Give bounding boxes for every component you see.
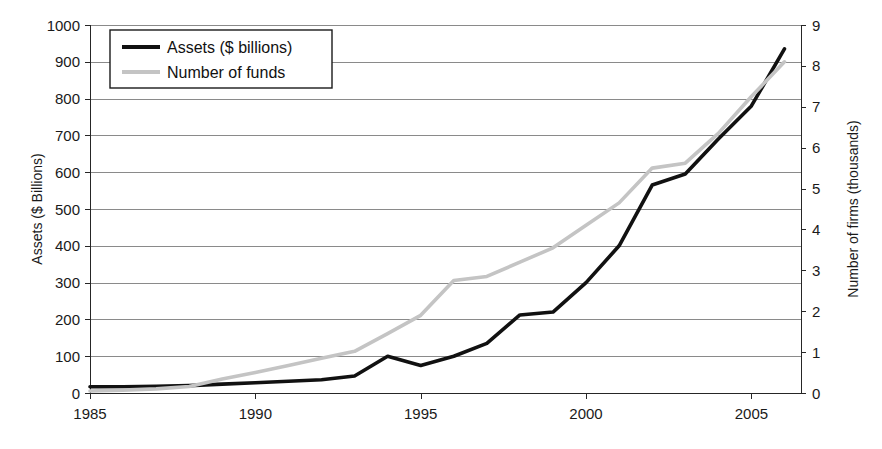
- y-axis-tick-label: 200: [55, 311, 80, 328]
- y2-axis-tick-label: 2: [812, 303, 820, 320]
- series-line-funds: [90, 62, 784, 391]
- y2-axis-tick-label: 6: [812, 139, 820, 156]
- y-axis-tick-label: 800: [55, 90, 80, 107]
- y-axis-tick-label: 400: [55, 237, 80, 254]
- line-chart: 01002003004005006007008009001000 0123456…: [0, 0, 882, 449]
- y-axis-tick-label: 300: [55, 274, 80, 291]
- y2-axis-tick-label: 7: [812, 98, 820, 115]
- x-axis-tick-label: 2000: [569, 405, 602, 422]
- y2-axis-title: Number of firms (thousands): [845, 120, 861, 297]
- data-series-group: [90, 49, 784, 391]
- legend: Assets ($ billions)Number of funds: [110, 30, 332, 88]
- y-axis-title: Assets ($ Billions): [29, 153, 45, 264]
- y-axis-tick-labels: 01002003004005006007008009001000: [47, 17, 80, 402]
- x-axis-tick-label: 1995: [404, 405, 437, 422]
- y-axis-tick-label: 700: [55, 127, 80, 144]
- y-axis-tick-label: 600: [55, 164, 80, 181]
- y-axis-tick-label: 1000: [47, 17, 80, 34]
- y2-axis-tick-label: 5: [812, 180, 820, 197]
- y-axis-tick-label: 900: [55, 53, 80, 70]
- legend-label: Number of funds: [167, 64, 285, 81]
- chart-container: 01002003004005006007008009001000 0123456…: [0, 0, 882, 449]
- x-axis-tick-label: 1985: [73, 405, 106, 422]
- y-axis-tick-label: 0: [72, 385, 80, 402]
- y2-axis-tick-label: 0: [812, 385, 820, 402]
- x-axis-tick-labels: 19851990199520002005: [73, 405, 768, 422]
- y2-axis-tick-label: 8: [812, 57, 820, 74]
- legend-label: Assets ($ billions): [167, 39, 292, 56]
- y2-axis-tick-label: 9: [812, 17, 820, 34]
- y2-axis-tick-label: 4: [812, 221, 820, 238]
- y2-axis-tick-label: 3: [812, 262, 820, 279]
- x-axis-tick-label: 1990: [239, 405, 272, 422]
- y2-axis-tick-label: 1: [812, 344, 820, 361]
- x-axis-tick-label: 2005: [735, 405, 768, 422]
- y-axis-tick-label: 100: [55, 348, 80, 365]
- y-axis-tick-label: 500: [55, 201, 80, 218]
- y2-axis-tick-labels: 0123456789: [812, 17, 820, 402]
